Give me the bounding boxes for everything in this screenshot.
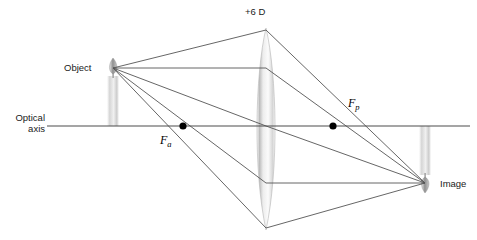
focal-point-anterior-dot — [179, 122, 186, 129]
optical-axis-label-line2: axis — [28, 123, 45, 134]
focal-point-posterior-dot — [329, 122, 336, 129]
focal-point-posterior-label: Fp — [348, 98, 360, 113]
lens-shape — [257, 28, 275, 230]
optics-diagram-canvas: +6 D Object Opticalaxis Fa Fp Image — [0, 0, 477, 240]
lens-power-label: +6 D — [245, 6, 265, 17]
image-candle-body — [419, 126, 431, 175]
image-candle-flame — [421, 177, 429, 193]
image-label: Image — [440, 178, 466, 189]
ray-diagram-svg — [0, 0, 477, 240]
converging-lens — [257, 28, 275, 230]
focal-point-anterior-subscript: a — [167, 139, 171, 149]
optical-axis-label: Opticalaxis — [5, 112, 45, 134]
object-label: Object — [64, 62, 91, 73]
focal-point-posterior-subscript: p — [355, 102, 359, 112]
focal-point-anterior-label: Fa — [160, 135, 172, 150]
object-candle-body — [107, 76, 119, 126]
optical-axis-label-line1: Optical — [15, 112, 45, 123]
object-candle-flame — [109, 58, 117, 74]
